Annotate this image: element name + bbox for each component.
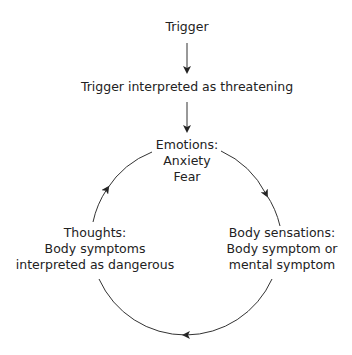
thoughts-line: interpreted as dangerous — [16, 257, 174, 273]
trigger-label: Trigger — [165, 19, 208, 35]
body-sensations-line: mental symptom — [226, 257, 337, 273]
emotions-heading: Emotions: — [156, 137, 218, 153]
interpreted-label: Trigger interpreted as threatening — [81, 79, 293, 95]
body-sensations-heading: Body sensations: — [226, 225, 337, 241]
node-emotions: Emotions: Anxiety Fear — [156, 137, 218, 185]
node-body-sensations: Body sensations: Body symptom or mental … — [226, 225, 337, 273]
arc-emotions-to-body — [221, 151, 266, 194]
node-thoughts: Thoughts: Body symptoms interpreted as d… — [16, 225, 174, 273]
emotions-line: Fear — [156, 169, 218, 185]
thoughts-heading: Thoughts: — [16, 225, 174, 241]
emotions-line: Anxiety — [156, 153, 218, 169]
node-interpreted: Trigger interpreted as threatening — [81, 79, 293, 95]
arc-thoughts-to-emotions — [93, 189, 107, 222]
node-trigger: Trigger — [165, 19, 208, 35]
body-sensations-line: Body symptom or — [226, 241, 337, 257]
anxiety-cycle-diagram: Trigger Trigger interpreted as threateni… — [0, 0, 352, 355]
thoughts-line: Body symptoms — [16, 241, 174, 257]
arc-body-to-thoughts — [186, 279, 272, 335]
